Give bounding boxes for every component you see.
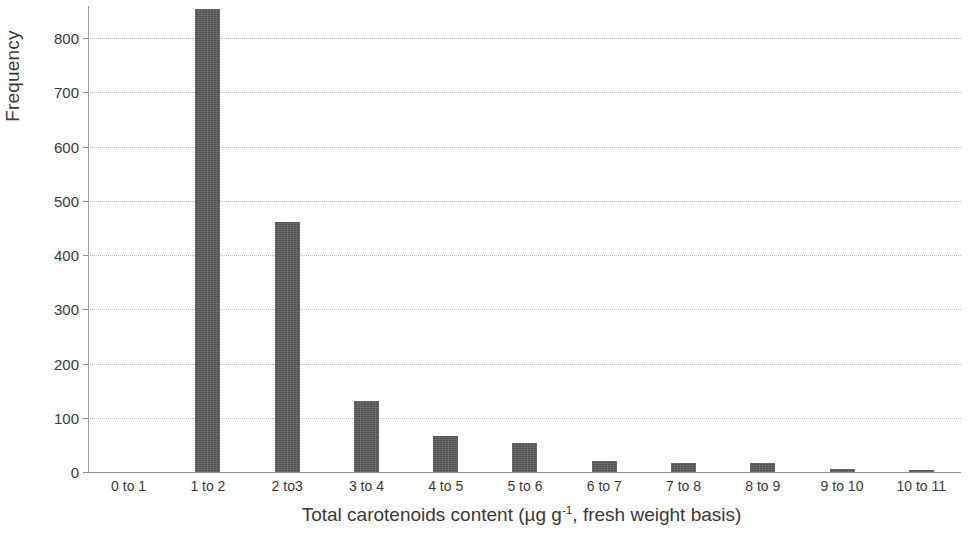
bar-slot <box>168 6 247 472</box>
bar <box>512 443 537 472</box>
bar-slot <box>802 6 881 472</box>
bar-slot <box>485 6 564 472</box>
bar <box>909 470 934 472</box>
y-axis-tick-mark <box>83 92 88 93</box>
bar <box>671 463 696 472</box>
bar <box>354 401 379 472</box>
x-axis-tick-label: 7 to 8 <box>644 478 723 494</box>
y-axis-tick-label: 500 <box>54 192 79 209</box>
bar-slot <box>406 6 485 472</box>
bar-slot <box>723 6 802 472</box>
x-axis-tick-label: 4 to 5 <box>406 478 485 494</box>
x-axis-tick-label: 5 to 6 <box>485 478 564 494</box>
x-axis-line <box>88 472 961 473</box>
x-axis-tick-label: 6 to 7 <box>565 478 644 494</box>
y-axis-tick-label: 400 <box>54 247 79 264</box>
x-axis-title-superscript: -1 <box>562 503 572 516</box>
y-axis-tick-mark <box>83 38 88 39</box>
plot-area: 0100200300400500600700800 <box>88 6 961 473</box>
x-axis-tick-label: 9 to 10 <box>802 478 881 494</box>
y-axis-title: Frequency <box>2 0 28 176</box>
y-axis-tick-label: 0 <box>71 464 79 481</box>
y-axis-tick-mark <box>83 255 88 256</box>
histogram-figure: Frequency 0100200300400500600700800 0 to… <box>0 0 973 536</box>
y-axis-tick-mark <box>83 472 88 473</box>
bar <box>592 461 617 472</box>
y-axis-tick-mark <box>83 418 88 419</box>
bar-slot <box>248 6 327 472</box>
bar <box>433 436 458 472</box>
bar-slot <box>89 6 168 472</box>
y-axis-tick-mark <box>83 201 88 202</box>
x-axis-tick-label: 3 to 4 <box>327 478 406 494</box>
y-axis-tick-label: 300 <box>54 301 79 318</box>
x-axis-tick-label: 10 to 11 <box>882 478 961 494</box>
bar <box>195 9 220 472</box>
bar <box>750 463 775 472</box>
x-axis-title-after: , fresh weight basis) <box>572 504 741 525</box>
y-axis-tick-mark <box>83 147 88 148</box>
y-axis-tick-label: 200 <box>54 355 79 372</box>
x-axis-title: Total carotenoids content (µg g-1, fresh… <box>0 504 973 526</box>
x-axis-tick-label: 1 to 2 <box>168 478 247 494</box>
y-axis-tick-label: 100 <box>54 409 79 426</box>
y-axis-tick-mark <box>83 364 88 365</box>
x-axis-tick-label: 0 to 1 <box>89 478 168 494</box>
y-axis-tick-label: 800 <box>54 30 79 47</box>
bar-series <box>89 6 961 472</box>
y-axis-tick-label: 600 <box>54 138 79 155</box>
y-axis-tick-label: 700 <box>54 84 79 101</box>
x-axis-tick-label: 8 to 9 <box>723 478 802 494</box>
bar-slot <box>327 6 406 472</box>
bar-slot <box>565 6 644 472</box>
x-axis-title-before: Total carotenoids content (µg g <box>302 504 562 525</box>
x-axis-tick-labels: 0 to 11 to 22 to33 to 44 to 55 to 66 to … <box>89 478 961 494</box>
bar-slot <box>882 6 961 472</box>
x-axis-tick-label: 2 to3 <box>248 478 327 494</box>
bar <box>275 222 300 472</box>
bar <box>830 469 855 472</box>
bar-slot <box>644 6 723 472</box>
y-axis-tick-mark <box>83 309 88 310</box>
